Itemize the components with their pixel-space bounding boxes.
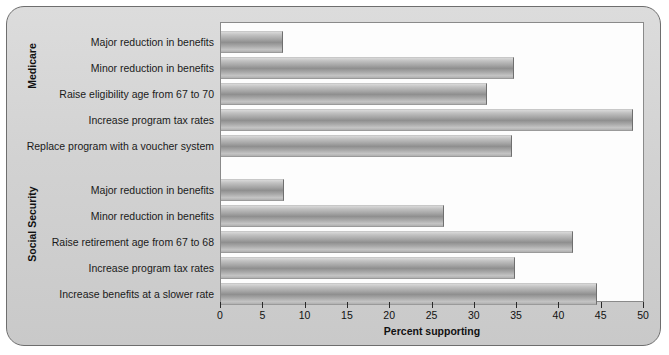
x-axis-tick-label: 50 (637, 309, 649, 321)
x-axis-tick-label: 20 (383, 309, 395, 321)
bar (221, 109, 633, 131)
bar-row (221, 179, 644, 201)
category-label: Raise eligibility age from 67 to 70 (10, 83, 220, 105)
category-label: Increase benefits at a slower rate (10, 283, 220, 305)
category-label: Increase program tax rates (10, 257, 220, 279)
bar-row (221, 57, 644, 79)
bar-row (221, 83, 644, 105)
x-axis-tick-label: 10 (299, 309, 311, 321)
x-axis-tick (432, 302, 433, 308)
bar (221, 257, 515, 279)
bar-row (221, 231, 644, 253)
bar-row (221, 205, 644, 227)
bar (221, 231, 573, 253)
x-axis-tick (643, 302, 644, 308)
category-label: Raise retirement age from 67 to 68 (10, 231, 220, 253)
x-axis-tick-label: 30 (468, 309, 480, 321)
x-axis-tick-label: 25 (426, 309, 438, 321)
x-axis-tick (474, 302, 475, 308)
bar (221, 83, 487, 105)
category-label: Minor reduction in benefits (10, 205, 220, 227)
category-labels: Major reduction in benefitsMinor reducti… (0, 23, 220, 303)
x-axis-tick-label: 0 (217, 309, 223, 321)
bar (221, 205, 444, 227)
bar-row (221, 257, 644, 279)
x-axis-tick-label: 5 (259, 309, 265, 321)
category-label: Replace program with a voucher system (10, 135, 220, 157)
bar-row (221, 109, 644, 131)
bar-row (221, 31, 644, 53)
x-axis-tick (262, 302, 263, 308)
bars-layer (221, 23, 644, 301)
x-axis-tick-label: 35 (510, 309, 522, 321)
x-axis-tick-label: 40 (553, 309, 565, 321)
chart-figure: Medicare Social Security Major reduction… (0, 0, 669, 355)
category-label: Major reduction in benefits (10, 31, 220, 53)
category-label: Minor reduction in benefits (10, 57, 220, 79)
category-label: Major reduction in benefits (10, 179, 220, 201)
bar (221, 31, 283, 53)
x-axis-tick (347, 302, 348, 308)
x-axis-tick (389, 302, 390, 308)
bar (221, 179, 284, 201)
x-axis-title: Percent supporting (220, 325, 644, 337)
bar (221, 135, 512, 157)
x-axis-tick (305, 302, 306, 308)
x-axis-tick-label: 45 (595, 309, 607, 321)
x-axis-tick-label: 15 (341, 309, 353, 321)
bar (221, 57, 514, 79)
bar-row (221, 135, 644, 157)
x-axis-tick (558, 302, 559, 308)
category-label: Increase program tax rates (10, 109, 220, 131)
x-axis-tick (516, 302, 517, 308)
x-axis-tick (220, 302, 221, 308)
x-axis-tick (601, 302, 602, 308)
x-axis: 05101520253035404550 (220, 302, 644, 303)
